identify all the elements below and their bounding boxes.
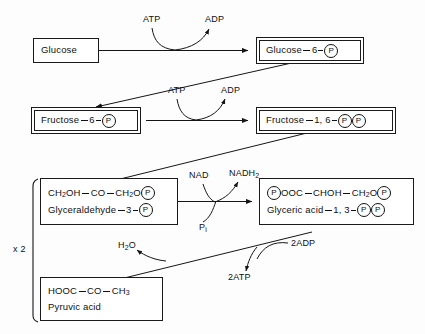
bond-dash [306, 120, 313, 121]
curve-nadh2-out [215, 182, 238, 202]
curve-two-adp-in [257, 243, 288, 259]
curve-pi-in [203, 201, 216, 222]
adp-label-step3: ADP [221, 85, 240, 95]
adp-label-step1: ADP [205, 14, 224, 24]
water-label: H2O [118, 240, 136, 250]
bond-dash [79, 291, 86, 292]
x2-bracket [33, 179, 38, 322]
node-pyruvic-acid-line-1: HOOC CO CH3 [48, 285, 130, 298]
node-glyceric-acid-line-2: Glyceric acid 1, 3 P P [267, 203, 385, 217]
node-fructose-6-phosphate[interactable]: Fructose 6 P [31, 107, 141, 134]
bond-dash [81, 120, 88, 121]
node-glyceric-acid-line-1: POOC CHOH CH2O P [267, 186, 391, 200]
bond-dash-short [318, 50, 323, 51]
label-pyruvic-acid: Pyruvic acid [48, 301, 101, 314]
phosphate-circle-icon: P [267, 186, 281, 200]
curve-adp-out-step3 [196, 99, 225, 120]
curve-atp-in-step1 [152, 28, 175, 50]
bond-dash-short [332, 120, 337, 121]
arrow-dpg-to-pyruvate [112, 232, 312, 281]
node-glyceraldehyde-3-phosphate-line-1: CH2OH CO CH2O P [48, 186, 155, 200]
subscript-2: 2 [366, 190, 370, 199]
phosphate-circle-icon: P [141, 186, 155, 200]
bond-dash [82, 193, 89, 194]
group-o: O [370, 187, 378, 200]
group-hooc: HOOC [48, 285, 77, 298]
nadh2-label: NADH2 [229, 168, 259, 178]
position-numbers: 1, 3 [333, 204, 349, 217]
nadh2-base: NADH [229, 168, 255, 178]
bond-dash [303, 50, 310, 51]
node-pyruvic-acid[interactable]: HOOC CO CH3 Pyruvic acid [40, 277, 163, 321]
group-co: CO [91, 187, 106, 200]
phosphate-circle-icon: P [352, 114, 366, 128]
node-glucose[interactable]: Glucose [33, 38, 99, 63]
curve-water-out [137, 250, 166, 261]
position-number: 6 [312, 44, 317, 57]
curve-adp-out-step1 [175, 29, 209, 50]
node-fructose-1-6-bisphosphate-line-1: Fructose 1, 6 P P [266, 114, 366, 128]
bond-dash [343, 193, 350, 194]
bond-dash [118, 210, 125, 211]
subscript-3: 3 [126, 288, 130, 297]
node-glyceraldehyde-3-phosphate-line-2: Glyceraldehyde 3 P [48, 203, 153, 217]
node-pyruvic-acid-line-2: Pyruvic acid [48, 301, 101, 314]
phosphate-circle-icon: P [139, 203, 153, 217]
node-glucose-6-phosphate[interactable]: Glucose 6 P [256, 37, 364, 64]
phosphate-circle-icon: P [371, 203, 385, 217]
two-adp-label: 2ADP [291, 238, 315, 248]
position-number: 3 [126, 204, 131, 217]
subscript-i: i [205, 226, 207, 233]
node-glucose-6-phosphate-inner: Glucose 6 P [259, 40, 361, 61]
nad-label: NAD [189, 170, 209, 180]
node-fructose-1-6-bisphosphate[interactable]: Fructose 1, 6 P P [256, 107, 396, 134]
multiplier-label: x 2 [13, 244, 26, 254]
subscript-2: 2 [62, 190, 66, 199]
label-glyceraldehyde: Glyceraldehyde [48, 204, 116, 217]
curve-atp-in-step3 [177, 99, 196, 120]
label-fructose: Fructose [41, 114, 79, 127]
group-ch: CH [48, 187, 62, 200]
group-choh: CHOH [313, 187, 342, 200]
bond-dash [325, 210, 332, 211]
phosphate-circle-icon: P [357, 203, 371, 217]
node-fructose-1-6-bisphosphate-inner: Fructose 1, 6 P P [259, 110, 393, 131]
node-fructose-6-phosphate-inner: Fructose 6 P [34, 110, 138, 131]
curve-nad-in [203, 184, 215, 202]
label-fructose: Fructose [266, 114, 304, 127]
two-atp-label: 2ATP [228, 272, 251, 282]
subscript-2: 2 [129, 190, 133, 199]
group-oh: OH [66, 187, 81, 200]
phosphate-circle-icon: P [338, 114, 352, 128]
bond-dash-short [351, 210, 356, 211]
subscript-2: 2 [255, 172, 259, 179]
inorganic-phosphate-label: Pi [199, 222, 207, 232]
position-number: 6 [89, 114, 94, 127]
water-o: O [129, 240, 136, 250]
group-co: CO [87, 285, 102, 298]
label-glucose: Glucose [266, 44, 302, 57]
bond-dash-short [96, 120, 101, 121]
position-numbers: 1, 6 [314, 114, 330, 127]
node-glyceraldehyde-3-phosphate[interactable]: CH2OH CO CH2O P Glyceraldehyde 3 P [40, 178, 178, 225]
arrow-g6p-to-f6p [96, 62, 296, 107]
atp-label-step1: ATP [143, 14, 160, 24]
node-fructose-6-phosphate-line-1: Fructose 6 P [41, 114, 116, 128]
node-glucose-text: Glucose [41, 44, 77, 57]
group-ch: CH [352, 187, 366, 200]
bond-dash [107, 193, 114, 194]
node-glucose-line-1: Glucose [41, 44, 77, 57]
group-ch: CH [112, 285, 126, 298]
glycolysis-diagram: Glucose Glucose 6 P Fructose 6 P [0, 0, 425, 334]
phosphate-circle-icon: P [377, 186, 391, 200]
bond-dash-short [133, 210, 138, 211]
phosphate-circle-icon: P [324, 44, 338, 58]
bond-dash [305, 193, 312, 194]
water-h: H [118, 240, 125, 250]
label-glyceric-acid: Glyceric acid [267, 204, 323, 217]
node-glyceric-acid-1-3-bisphosphate[interactable]: POOC CHOH CH2O P Glyceric acid 1, 3 P P [259, 178, 414, 225]
phosphate-circle-icon: P [102, 114, 116, 128]
group-ooc: OOC [281, 187, 303, 200]
subscript-2: 2 [125, 244, 129, 251]
atp-label-step3: ATP [168, 85, 185, 95]
